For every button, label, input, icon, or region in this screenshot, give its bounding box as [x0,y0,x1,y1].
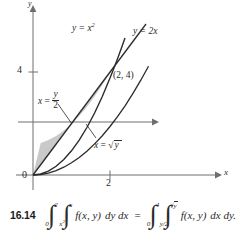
curve-label-parabola: y = x2 [72,22,95,34]
sqrt-y-upper: √y [170,201,178,210]
integrand-right: f(x, y) [181,209,207,221]
figure-number: 16.14 [10,209,35,221]
outer-integral-left-upper: 2 [54,201,58,209]
equation: ∫ 2 0 ∫ x x2 f(x, y) dy dx = ∫ 4 0 ∫ √y … [44,203,237,227]
origin-label: 0 [22,170,27,180]
left-boundary-equals: = [45,96,50,106]
outer-integral-right-lower: 0 [147,220,151,228]
radicand: y [114,140,122,151]
left-boundary-var: x [38,96,42,106]
y-tick-label-4: 4 [17,65,22,75]
outer-integral-right-upper: 4 [156,201,160,209]
x-tick-label-2: 2 [106,178,111,188]
y-axis-label: y [28,0,32,8]
equals-sign: = [134,209,140,221]
inner-integral-left-upper: x [69,201,72,209]
differentials-right: dx dy. [210,209,236,221]
fraction-y-over-2: y 2 [52,90,59,111]
parabola-label-text: y = x [72,23,92,33]
outer-integral-right: ∫ 4 0 [147,203,161,227]
curve-label-line: y = 2x [133,27,157,37]
right-boundary-label: x = √y [94,140,122,151]
fraction-denominator: 2 [52,101,59,111]
leader-line-sqrt [86,124,96,138]
x-axis-label: x [224,168,228,177]
leader-line-xhalf [58,104,72,124]
inner-integral-right: ∫ √y y/2 [162,203,180,227]
inner-integral-right-lower: y/2 [160,220,169,228]
inner-integral-left-lower: x2 [59,219,65,228]
right-boundary-var: x [94,140,98,150]
integrand-left: f(x, y) [75,209,101,221]
outer-integral-left: ∫ 2 0 [45,203,59,227]
caption: 16.14 ∫ 2 0 ∫ x x2 f(x, y) dy dx = ∫ 4 0… [0,196,251,234]
inner-integral-right-upper: √y [170,201,178,210]
parabola-label-exponent: 2 [92,21,95,28]
outer-integral-left-lower: 0 [45,220,49,228]
differentials-left: dy dx [105,209,129,221]
figure-plot: y x 4 2 0 y = x2 y = 2x (2, 4) x = y 2 x… [0,0,251,196]
radical-sqrt-y: √y [108,140,121,151]
inner-integral-left: ∫ x x2 [60,203,74,227]
intersection-point-label: (2, 4) [113,71,134,81]
left-boundary-label: x = y 2 [38,90,59,111]
right-boundary-equals: = [101,140,106,150]
